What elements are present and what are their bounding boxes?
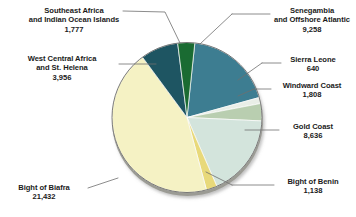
label-bight-of-benin-line1: Bight of Benin (272, 177, 354, 186)
label-sierra-leone-value: 640 (280, 64, 346, 73)
label-sierra-leone: Sierra Leone 640 (280, 55, 346, 74)
label-gold-coast: Gold Coast 8,636 (278, 122, 348, 141)
label-southeast-africa-line2: and Indian Ocean Islands (4, 15, 144, 24)
pie-chart-figure: Southeast Africa and Indian Ocean Island… (0, 0, 356, 217)
label-senegambia-value: 9,258 (268, 25, 356, 34)
label-southeast-africa-line1: Southeast Africa (4, 6, 144, 15)
label-senegambia-line1: Senegambia (268, 6, 356, 15)
label-bight-of-biafra-value: 21,432 (0, 192, 88, 201)
leader-senegambia (200, 14, 270, 44)
label-bight-of-benin-value: 1,138 (272, 186, 354, 195)
label-windward-coast-line1: Windward Coast (270, 81, 354, 90)
label-west-central-africa-line2: and St. Helena (6, 63, 118, 72)
label-bight-of-biafra: Bight of Biafra 21,432 (0, 183, 88, 202)
label-senegambia: Senegambia and Offshore Atlantic 9,258 (268, 6, 356, 34)
label-gold-coast-line1: Gold Coast (278, 122, 348, 131)
label-west-central-africa: West Central Africa and St. Helena 3,956 (6, 54, 118, 82)
label-southeast-africa: Southeast Africa and Indian Ocean Island… (4, 6, 144, 34)
label-sierra-leone-line1: Sierra Leone (280, 55, 346, 64)
label-windward-coast: Windward Coast 1,808 (270, 81, 354, 100)
label-windward-coast-value: 1,808 (270, 90, 354, 99)
label-bight-of-biafra-line1: Bight of Biafra (0, 183, 88, 192)
pie-slices (112, 42, 262, 192)
label-senegambia-line2: and Offshore Atlantic (268, 15, 356, 24)
label-southeast-africa-value: 1,777 (4, 25, 144, 34)
label-bight-of-benin: Bight of Benin 1,138 (272, 177, 354, 196)
label-gold-coast-value: 8,636 (278, 131, 348, 140)
label-west-central-africa-line1: West Central Africa (6, 54, 118, 63)
label-west-central-africa-value: 3,956 (6, 73, 118, 82)
leader-bight-of-biafra (88, 178, 118, 188)
